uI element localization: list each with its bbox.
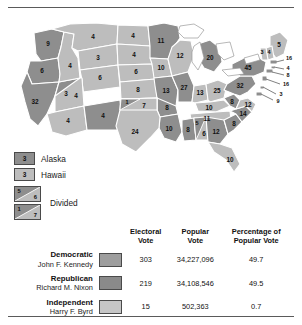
percent-popular-democratic: 49.7 [224,255,288,264]
vote-label-MO: 13 [162,87,170,94]
legend-divided-rep-votes-alabama: 6 [34,194,37,200]
vote-label-KS: 8 [136,86,140,93]
vote-label-MN: 11 [158,37,165,44]
legend-label-hawaii: Hawaii [41,170,66,180]
legend-swatch-alaska: 3 [14,152,35,165]
legend-divided-rep-votes-oklahoma: 7 [34,212,37,218]
popular-header-line2: Vote [166,237,224,246]
vote-label-AL-dem: 5 [195,120,198,126]
party-cell-democratic: Democratic John F. Kennedy [18,250,99,269]
state-CT [266,69,273,73]
vote-label-WI: 12 [176,52,184,59]
vote-label-MA: 16 [286,55,292,61]
vote-label-OR: 6 [40,67,44,74]
percent-popular-republican: 49.5 [224,279,288,288]
vote-label-ME: 5 [277,41,281,48]
vote-label-ID: 4 [68,62,72,69]
vote-label-CA: 32 [31,98,39,105]
vote-label-RI: 4 [286,65,290,71]
popular-vote-democratic: 34,227,096 [166,255,224,264]
vote-label-WV: 8 [230,98,234,105]
swatch-cell-republican [99,276,125,290]
vote-label-SD: 4 [132,51,136,58]
vote-label-AL-rep: 6 [202,130,206,137]
legend-item-hawaii: 3 Hawaii [14,168,124,181]
table-row: Independent Harry F. Byrd 15 502,363 0.7 [18,298,288,317]
legend-divided-swatches: 5 6 1 7 [14,186,41,220]
vote-label-CT: 8 [286,72,289,78]
vote-label-MD: 9 [276,98,279,104]
swatch-cell-independent [99,300,125,314]
vote-label-IL: 27 [180,84,188,91]
vote-label-NM: 4 [101,112,105,119]
vote-label-IA: 10 [157,64,165,71]
vote-label-TN: 11 [204,115,211,122]
vote-label-AR: 8 [165,104,169,111]
percent-popular-independent: 0.7 [224,302,288,311]
vote-label-NC: 14 [239,110,247,117]
vote-label-OH: 25 [213,87,221,94]
vote-label-ND: 4 [131,32,135,39]
map-legend: 3 Alaska 3 Hawaii 5 6 [14,152,124,220]
vote-label-MS: 8 [186,126,190,133]
legend-item-divided: 5 6 1 7 Divided [14,186,124,220]
vote-label-AZ: 4 [66,117,70,124]
callout-leader-NJ [266,79,280,84]
callout-leader-MD [261,94,273,100]
party-name-republican: Republican [18,274,93,283]
column-header-popular-vote: Popular Vote [166,228,224,245]
vote-label-FL: 10 [226,156,234,163]
candidate-name-nixon: Richard M. Nixon [18,283,93,292]
state-FL [208,142,240,172]
legend-divided-dem-votes-oklahoma: 1 [18,206,21,212]
color-swatch-democratic [99,253,122,267]
electoral-vote-republican: 219 [125,279,166,288]
results-table: Electoral Vote Popular Vote Percentage o… [18,228,288,316]
vote-label-KY: 10 [205,104,213,111]
vote-label-UT: 4 [74,92,78,99]
vote-label-MT: 4 [91,33,95,40]
top-divider [8,7,294,8]
table-header-row: Electoral Vote Popular Vote Percentage o… [18,228,288,245]
vote-label-NJ: 16 [283,81,289,87]
legend-votes-hawaii: 3 [15,169,34,180]
vote-label-MI: 20 [206,54,214,61]
vote-label-VT: 3 [260,49,263,55]
column-header-electoral-vote: Electoral Vote [125,228,166,245]
vote-label-VA: 12 [244,101,252,108]
electoral-map-figure: 9 6 32 3 4 4 3 4 4 6 4 4 4 6 8 11 10 13 … [0,0,302,325]
state-NJ [262,76,267,81]
vote-label-DE: 3 [279,91,282,97]
legend-label-divided: Divided [50,198,78,208]
color-swatch-independent [99,300,122,314]
vote-label-PA: 32 [236,82,244,89]
candidate-name-kennedy: John F. Kennedy [18,260,93,269]
party-name-democratic: Democratic [18,250,93,259]
vote-label-IN: 13 [196,89,204,96]
electoral-vote-democratic: 303 [125,255,166,264]
vote-label-WY: 3 [96,54,100,61]
legend-swatch-hawaii: 3 [14,168,35,181]
table-row: Democratic John F. Kennedy 303 34,227,09… [18,250,288,269]
state-MA [270,60,277,64]
color-swatch-republican [99,276,122,290]
legend-divided-dem-votes-alabama: 5 [18,188,21,194]
bottom-divider [8,316,294,317]
vote-label-OK-dem: 1 [125,99,128,105]
party-cell-republican: Republican Richard M. Nixon [18,274,99,293]
party-name-independent: Independent [18,298,93,307]
vote-label-OK-rep: 7 [142,102,146,109]
vote-label-NV: 3 [64,90,68,97]
vote-label-NY: 45 [244,64,252,71]
callout-leader-DE [263,87,276,94]
vote-label-CO: 6 [98,74,102,81]
vote-label-GA: 12 [212,128,220,135]
popular-vote-republican: 34,108,546 [166,279,224,288]
table-row: Republican Richard M. Nixon 219 34,108,5… [18,274,288,293]
legend-votes-alaska: 3 [15,153,34,164]
legend-swatch-divided-alabama: 5 6 [14,186,41,202]
vote-label-NE: 6 [134,68,138,75]
electoral-vote-independent: 15 [125,302,166,311]
callout-leader-CT [272,72,284,75]
lake-superior [178,24,204,38]
